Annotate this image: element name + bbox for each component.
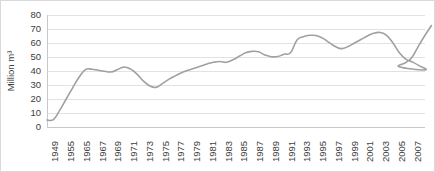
x-axis-tick-label: 1997	[333, 141, 344, 162]
x-axis-tick-label: 1971	[128, 141, 139, 162]
y-axis-tick-label: 10	[30, 107, 41, 118]
x-axis-tick-label: 2001	[364, 141, 375, 162]
x-axis-tick-label: 1983	[223, 141, 234, 162]
x-axis-tick-label: 1985	[238, 141, 249, 162]
x-axis-tick-label: 1969	[112, 141, 123, 162]
x-axis-tick-label: 1967	[97, 141, 108, 162]
x-axis-tick-label: 1987	[254, 141, 265, 162]
line-chart: 01020304050607080 1949195519651967196919…	[1, 1, 435, 172]
x-axis-tick-label: 1975	[160, 141, 171, 162]
x-axis-tick-label: 1981	[207, 141, 218, 162]
data-series-group	[47, 26, 431, 121]
y-axis-ticks-group: 01020304050607080	[30, 9, 41, 132]
x-axis-tick-label: 1949	[49, 141, 60, 162]
y-axis-tick-label: 80	[30, 9, 41, 20]
y-axis-tick-label: 30	[30, 79, 41, 90]
y-axis-tick-label: 70	[30, 23, 41, 34]
y-axis-tick-label: 50	[30, 51, 41, 62]
x-axis-tick-label: 2003	[380, 141, 391, 162]
x-axis-tick-label: 1995	[317, 141, 328, 162]
x-axis-tick-label: 2007	[412, 141, 423, 162]
x-axis-ticks-group: 1949195519651967196919711973197519771979…	[49, 141, 422, 162]
x-axis-tick-label: 1993	[301, 141, 312, 162]
y-axis-tick-label: 60	[30, 37, 41, 48]
x-axis-tick-label: 1973	[144, 141, 155, 162]
y-axis-title: Million m³	[5, 51, 16, 92]
x-axis-tick-label: 1955	[65, 141, 76, 162]
y-axis-tick-label: 40	[30, 65, 41, 76]
series-line-million-m3	[47, 26, 431, 121]
chart-container: 01020304050607080 1949195519651967196919…	[0, 0, 435, 172]
y-axis-tick-label: 20	[30, 93, 41, 104]
x-axis-tick-label: 1991	[286, 141, 297, 162]
x-axis-tick-label: 2005	[396, 141, 407, 162]
x-axis-tick-label: 1977	[175, 141, 186, 162]
x-axis-tick-label: 1965	[81, 141, 92, 162]
x-axis-tick-label: 1979	[191, 141, 202, 162]
x-axis-tick-label: 1999	[349, 141, 360, 162]
y-axis-tick-label: 0	[36, 121, 41, 132]
x-axis-tick-label: 1989	[270, 141, 281, 162]
